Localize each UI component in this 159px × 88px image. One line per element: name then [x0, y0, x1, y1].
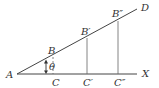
label-b-double-prime: B″ [111, 8, 123, 19]
trig-similar-triangles-diagram: A B B′ B″ C C′ C″ D X θ [0, 0, 159, 88]
label-c-double-prime: C″ [114, 77, 126, 88]
label-theta: θ [49, 61, 55, 72]
label-c: C [52, 77, 60, 88]
angle-theta-arrow [44, 60, 48, 75]
label-c-prime: C′ [83, 77, 94, 88]
label-b-prime: B′ [80, 26, 91, 37]
label-d: D [140, 2, 149, 13]
label-a: A [5, 69, 13, 80]
label-b: B [47, 45, 55, 56]
label-x: X [141, 68, 150, 79]
